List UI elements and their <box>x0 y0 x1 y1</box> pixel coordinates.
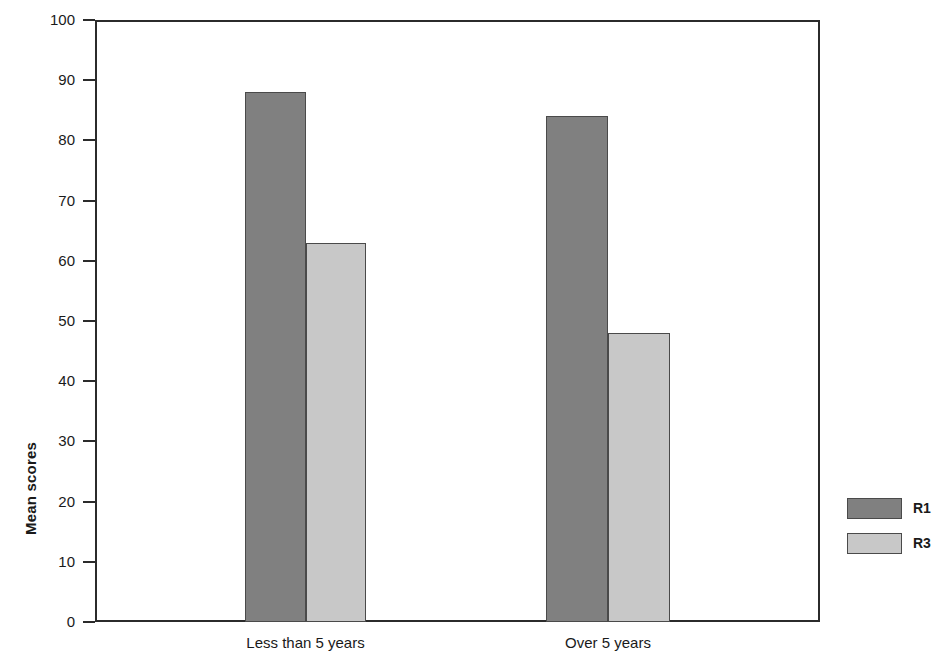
y-axis-tick-mark <box>83 260 95 262</box>
y-axis-tick-label: 10 <box>0 551 75 573</box>
legend-label-r3: R3 <box>913 535 931 551</box>
x-axis-category-label: Over 5 years <box>488 634 728 651</box>
y-axis-tick-mark <box>83 139 95 141</box>
y-axis-tick-mark <box>83 501 95 503</box>
y-axis-tick-mark <box>83 320 95 322</box>
y-axis-tick-label: 20 <box>0 491 75 513</box>
legend-label-r1: R1 <box>913 500 931 516</box>
y-axis-tick-mark <box>83 621 95 623</box>
bar-r1-1 <box>245 92 306 622</box>
bar-chart-figure: Mean scores 1009080706050403020100 Less … <box>0 0 951 663</box>
y-axis-tick-label: 90 <box>0 69 75 91</box>
y-axis-tick-label: 80 <box>0 129 75 151</box>
y-axis-tick-mark <box>83 200 95 202</box>
y-axis-tick-mark <box>83 79 95 81</box>
x-axis-category-label: Less than 5 years <box>186 634 426 651</box>
chart-legend: R1R3 <box>845 498 951 566</box>
y-axis-tick-mark <box>83 19 95 21</box>
legend-swatch-r1 <box>847 498 902 519</box>
y-axis-tick-label: 60 <box>0 250 75 272</box>
y-axis-tick-label: 30 <box>0 430 75 452</box>
y-axis-tick-label: 40 <box>0 370 75 392</box>
plot-area <box>95 20 820 622</box>
legend-swatch-r3 <box>847 533 902 554</box>
bar-r1-2 <box>546 116 608 622</box>
bar-r3-2 <box>608 333 670 622</box>
y-axis-tick-mark <box>83 440 95 442</box>
y-axis-tick-label: 50 <box>0 310 75 332</box>
y-axis-tick-label: 0 <box>0 611 75 633</box>
y-axis-tick-mark <box>83 561 95 563</box>
bar-r3-1 <box>306 243 366 622</box>
y-axis-tick-label: 100 <box>0 9 75 31</box>
y-axis-tick-label: 70 <box>0 190 75 212</box>
y-axis-tick-mark <box>83 380 95 382</box>
